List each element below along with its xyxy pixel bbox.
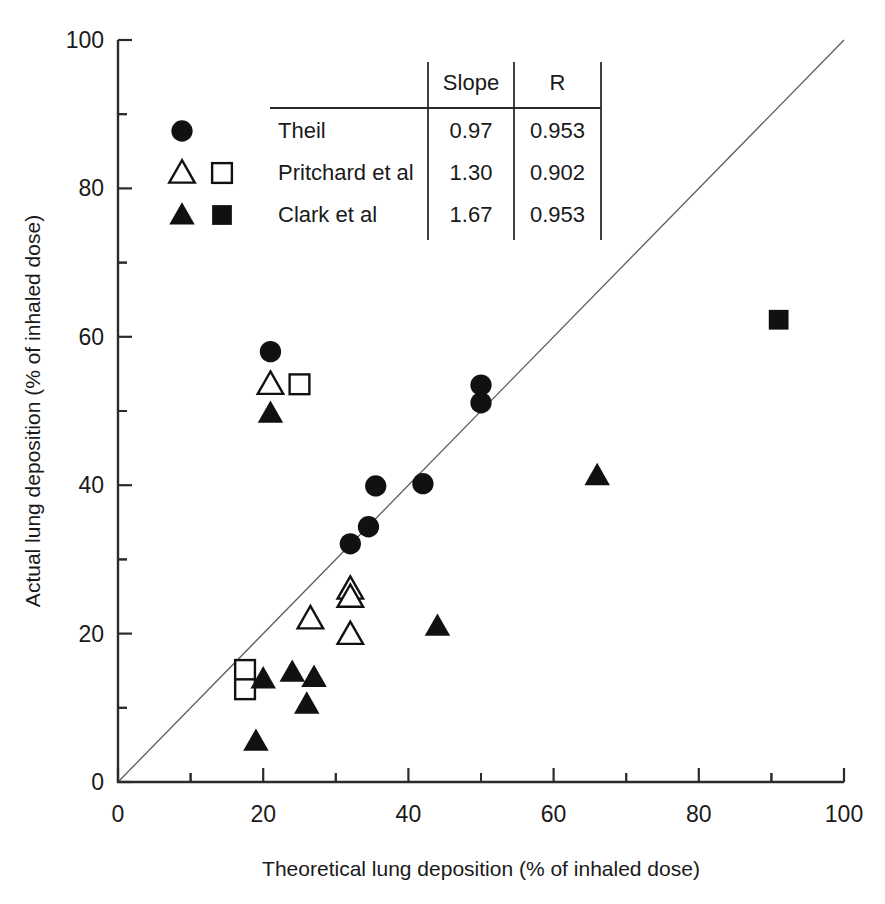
legend-header-r: R (550, 70, 566, 95)
x-tick-label: 40 (396, 801, 422, 827)
marker-filled-circle-point (470, 392, 491, 413)
y-tick-label: 40 (78, 472, 104, 498)
marker-filled-circle-point (358, 516, 379, 537)
marker-filled-square-point (769, 310, 789, 330)
legend-row-slope: 1.67 (450, 202, 493, 227)
figure-background (0, 0, 885, 904)
legend-row-slope: 1.30 (450, 160, 493, 185)
x-tick-label: 20 (250, 801, 276, 827)
legend-row-r: 0.953 (530, 118, 585, 143)
legend-row-slope: 0.97 (450, 118, 493, 143)
x-axis-title: Theoretical lung deposition (% of inhale… (262, 857, 700, 880)
marker-filled-circle-legend (171, 120, 192, 141)
chart-canvas: 020406080100 020406080100 SlopeRTheil0.9… (0, 0, 885, 904)
y-tick-label: 20 (78, 621, 104, 647)
marker-filled-circle-point (365, 475, 386, 496)
legend-row-label: Theil (278, 118, 326, 143)
legend-row-label: Clark et al (278, 202, 377, 227)
legend-row-r: 0.902 (530, 160, 585, 185)
legend-header-slope: Slope (443, 70, 499, 95)
marker-filled-circle-point (260, 341, 281, 362)
scatter-plot-figure: 020406080100 020406080100 SlopeRTheil0.9… (0, 0, 885, 904)
marker-open-square-point (235, 679, 255, 699)
marker-filled-circle-point (412, 473, 433, 494)
y-tick-label: 100 (66, 27, 104, 53)
x-tick-label: 100 (825, 801, 863, 827)
x-tick-label: 80 (686, 801, 712, 827)
y-axis-title: Actual lung deposition (% of inhaled dos… (21, 215, 44, 607)
legend-row-r: 0.953 (530, 202, 585, 227)
marker-open-square-point (235, 660, 255, 680)
marker-open-square-point (290, 374, 310, 394)
x-tick-label: 0 (112, 801, 125, 827)
legend-row-label: Pritchard et al (278, 160, 414, 185)
y-tick-label: 60 (78, 324, 104, 350)
y-tick-label: 0 (91, 769, 104, 795)
series-filled-square-4 (769, 310, 789, 330)
marker-filled-circle-point (340, 533, 361, 554)
marker-filled-square-legend (212, 205, 232, 225)
x-tick-label: 60 (541, 801, 567, 827)
marker-open-square-legend (212, 163, 232, 183)
y-tick-label: 80 (78, 175, 104, 201)
